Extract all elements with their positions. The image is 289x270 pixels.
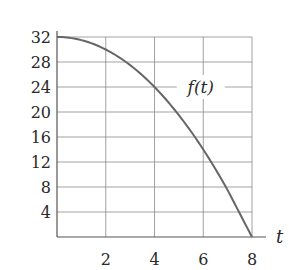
- x-tick-label: 6: [198, 250, 208, 269]
- y-tick-label: 28: [31, 53, 51, 72]
- y-tick-label: 12: [31, 153, 51, 172]
- y-tick-labels: 48121620242832: [31, 28, 51, 222]
- x-tick-label: 8: [247, 250, 257, 269]
- y-tick-label: 20: [31, 103, 51, 122]
- x-tick-label: 2: [101, 250, 111, 269]
- y-tick-label: 16: [31, 128, 51, 147]
- x-tick-labels: 2468: [101, 250, 257, 269]
- y-tick-label: 8: [41, 178, 51, 197]
- y-tick-label: 4: [41, 203, 51, 222]
- chart: 48121620242832 2468 f(t) t: [0, 0, 289, 270]
- curve-label: f(t): [177, 75, 225, 99]
- x-tick-label: 4: [149, 250, 159, 269]
- curve-label-text: f(t): [186, 77, 214, 97]
- x-axis-label: t: [276, 226, 284, 247]
- y-tick-label: 24: [31, 78, 51, 97]
- grid-lines: [57, 37, 252, 237]
- y-tick-label: 32: [31, 28, 51, 47]
